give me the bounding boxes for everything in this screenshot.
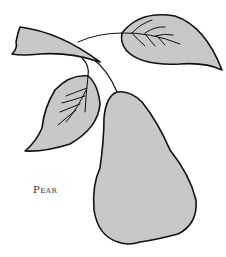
stem-lower-leaf [82,58,88,76]
pear-illustration [0,0,226,257]
leaf-lower-left [25,76,100,151]
leaf-top-left [12,27,100,62]
leaf-top-right [122,15,223,70]
stem-branch [78,33,122,42]
caption-label: Pear [33,184,57,195]
pear-body [94,92,197,244]
